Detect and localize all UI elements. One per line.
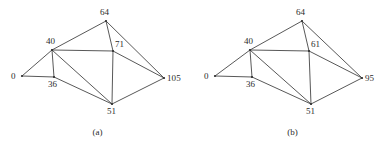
node-label-40: 40 xyxy=(244,37,253,46)
graph-node-36 xyxy=(251,76,253,78)
node-label-36: 36 xyxy=(48,80,57,89)
figure-panel-a: 04036647151105 (a) xyxy=(0,0,195,149)
graph-edge-n0-n40 xyxy=(22,50,52,76)
graph-edge-n51-n95 xyxy=(311,78,362,104)
graph-node-40 xyxy=(249,49,251,51)
graph-node-0 xyxy=(214,75,216,77)
graph-edge-n40-n64 xyxy=(52,21,106,50)
graph-edge-n40-n36 xyxy=(52,50,54,77)
node-label-0: 0 xyxy=(204,72,209,81)
graph-edge-n71-n105 xyxy=(113,51,164,78)
figure-panel-b: 0403664615195 (b) xyxy=(195,0,390,149)
graph-drawing-b xyxy=(195,0,390,132)
graph-node-0 xyxy=(21,75,23,77)
graph-edge-n40-n61 xyxy=(250,50,309,51)
graph-node-105 xyxy=(163,77,165,79)
graph-node-51 xyxy=(310,103,312,105)
node-label-64: 64 xyxy=(100,8,109,17)
graph-edge-n36-n51 xyxy=(252,77,311,104)
node-label-64: 64 xyxy=(296,8,305,17)
graph-edge-n64-n61 xyxy=(302,21,309,51)
node-label-61: 61 xyxy=(311,40,320,49)
graph-edge-n0-n40 xyxy=(215,50,250,76)
graph-edge-n40-n51 xyxy=(250,50,311,104)
graph-edge-n64-n95 xyxy=(302,21,362,78)
caption-b: (b) xyxy=(195,127,390,137)
graph-edge-n36-n51 xyxy=(54,77,112,104)
caption-a: (a) xyxy=(0,127,195,137)
node-label-105: 105 xyxy=(167,74,181,83)
graph-edge-n40-n64 xyxy=(250,21,302,50)
node-label-71: 71 xyxy=(115,40,124,49)
graph-edge-n61-n95 xyxy=(309,51,362,78)
graph-node-71 xyxy=(112,50,114,52)
graph-node-95 xyxy=(361,77,363,79)
node-label-95: 95 xyxy=(365,74,374,83)
figure-board: 04036647151105 (a) 0403664615195 (b) xyxy=(0,0,390,149)
graph-edge-n64-n105 xyxy=(106,21,164,78)
graph-node-64 xyxy=(105,20,107,22)
graph-edge-n64-n71 xyxy=(106,21,113,51)
node-label-51: 51 xyxy=(107,107,116,116)
node-label-40: 40 xyxy=(46,37,55,46)
graph-node-40 xyxy=(51,49,53,51)
graph-node-51 xyxy=(111,103,113,105)
graph-node-64 xyxy=(301,20,303,22)
node-label-51: 51 xyxy=(306,107,315,116)
graph-edge-n71-n51 xyxy=(112,51,113,104)
graph-edge-n0-n36 xyxy=(215,76,252,77)
node-label-0: 0 xyxy=(11,72,16,81)
graph-edge-n40-n36 xyxy=(250,50,252,77)
graph-edge-n40-n51 xyxy=(52,50,112,104)
graph-node-36 xyxy=(53,76,55,78)
node-label-36: 36 xyxy=(246,80,255,89)
graph-node-61 xyxy=(308,50,310,52)
graph-drawing-a xyxy=(0,0,195,132)
graph-edge-n40-n71 xyxy=(52,50,113,51)
graph-edge-n61-n51 xyxy=(309,51,311,104)
graph-edge-n0-n36 xyxy=(22,76,54,77)
graph-edge-n51-n105 xyxy=(112,78,164,104)
